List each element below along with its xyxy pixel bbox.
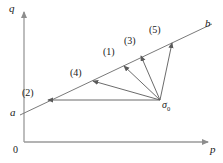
path-label-2: (2) xyxy=(22,88,34,98)
sigma-zero-label: σ0 xyxy=(162,100,170,113)
path-label-1: (1) xyxy=(103,47,115,57)
path-label-5: (5) xyxy=(149,25,161,35)
p-axis-label: p xyxy=(210,144,216,155)
failure-envelope-line xyxy=(20,24,212,115)
stress-path-arrow-3 xyxy=(141,56,160,100)
stress-path-arrow-5 xyxy=(160,43,172,100)
point-a-label: a xyxy=(10,107,16,118)
point-b-label: b xyxy=(205,18,211,29)
stress-path-diagram: q p 0 a b σ0 (1) (2) (3) (4) (5) xyxy=(0,0,223,163)
origin-label: 0 xyxy=(13,145,18,155)
path-label-3: (3) xyxy=(124,36,136,46)
sigma-subscript: 0 xyxy=(167,105,170,112)
diagram-canvas xyxy=(0,0,223,163)
q-axis-label: q xyxy=(9,3,15,14)
figure-caption xyxy=(0,155,223,163)
path-label-4: (4) xyxy=(70,68,82,78)
